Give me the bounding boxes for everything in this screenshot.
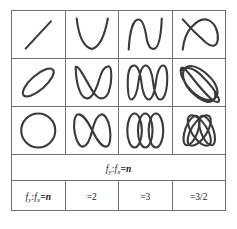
ratio-value-3-2: =3/2 [190,192,208,202]
label-row: fy:fx=n =2 =3 =3/2 [12,180,226,210]
label-cell-ratio-3: =3 [119,180,173,210]
figure-eight-icon [66,108,119,153]
curve-cell-r2c3 [172,106,226,154]
curve-cell-r2c2 [119,106,173,154]
n-double-hump-icon [119,12,172,57]
curve-cell-r0c1 [65,11,119,59]
x-with-loop-icon [173,12,226,57]
label-cell-ratio-3-2: =3/2 [172,180,226,210]
lissajous-table: fy:fx=n fy:fx=n =2 =3 =3/2 [11,10,226,211]
curve-row [12,58,226,106]
w-double-loop-icon [66,60,119,105]
curve-cell-r0c0 [12,11,66,59]
curve-row [12,106,226,154]
caption-equals-n: =n [120,164,131,174]
curve-cell-r1c1 [65,58,119,106]
caption-row: fy:fx=n [12,154,226,180]
ratio-value-3: =3 [140,192,150,202]
label-cell-formula: fy:fx=n [12,180,66,210]
woven-lattice-closed-icon [173,108,226,153]
curve-cell-r0c2 [119,11,173,59]
diagonal-line-icon [12,12,65,57]
label-formula: fy:fx=n [25,192,51,202]
lissajous-figure-root: fy:fx=n fy:fx=n =2 =3 =3/2 [0,0,237,229]
circle-icon [12,108,65,153]
triple-loop-open-icon [119,60,172,105]
curve-cell-r1c0 [12,58,66,106]
curve-cell-r2c0 [12,106,66,154]
caption-cell: fy:fx=n [12,154,226,180]
label-cell-ratio-2: =2 [65,180,119,210]
caption-formula: fy:fx=n [106,164,132,174]
label-equals-n: =n [40,192,51,202]
ratio-value-2: =2 [87,192,97,202]
woven-lattice-icon [173,60,226,105]
curve-cell-r1c2 [119,58,173,106]
curve-cell-r2c1 [65,106,119,154]
triple-loop-closed-icon [119,108,172,153]
u-curve-icon [66,12,119,57]
curve-cell-r1c3 [172,58,226,106]
curve-cell-r0c3 [172,11,226,59]
tilted-ellipse-icon [12,60,65,105]
curve-row [12,11,226,59]
